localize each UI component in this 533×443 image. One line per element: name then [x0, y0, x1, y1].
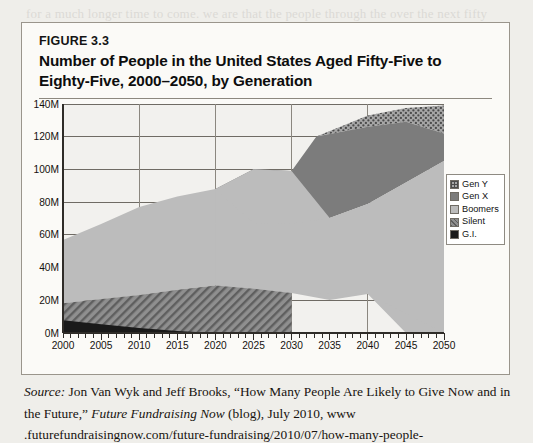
legend-item-silent: Silent	[450, 216, 499, 229]
legend-swatch-silent	[450, 218, 459, 227]
y-axis-tick-labels: 140M 120M 100M 80M 60M 40M 20M 0M	[34, 99, 59, 338]
chart-container: 140M 120M 100M 80M 60M 40M 20M 0M	[22, 99, 509, 349]
figure-box: FIGURE 3.3 Number of People in the Unite…	[21, 22, 510, 375]
svg-text:2025: 2025	[242, 340, 265, 349]
figure-header: FIGURE 3.3 Number of People in the Unite…	[22, 23, 509, 90]
legend-label-gen-y: Gen Y	[462, 180, 488, 189]
source-line-2b: (blog), July 2010, www	[225, 406, 356, 421]
svg-text:20M: 20M	[39, 295, 59, 306]
figure-title-line-1: Number of People in the United States Ag…	[39, 52, 441, 69]
source-citation: Source: Jon Van Wyk and Jeff Brooks, “Ho…	[24, 381, 512, 443]
legend-item-boomers: Boomers	[450, 203, 499, 216]
legend-swatch-g-i	[450, 230, 459, 239]
svg-text:2035: 2035	[318, 340, 341, 349]
chart-legend: Gen Y Gen X Boomers Silent G.I.	[446, 174, 505, 245]
source-line-1: Jon Van Wyk and Jeff Brooks, “How Many P…	[65, 384, 444, 399]
svg-text:0M: 0M	[45, 328, 59, 339]
source-label: Source:	[24, 384, 65, 399]
legend-label-boomers: Boomers	[462, 205, 499, 214]
figure-number: FIGURE 3.3	[39, 34, 492, 48]
figure-title: Number of People in the United States Ag…	[39, 51, 492, 90]
svg-text:2005: 2005	[90, 340, 113, 349]
source-publication: Future Fundraising Now	[91, 406, 224, 421]
svg-text:80M: 80M	[39, 197, 59, 208]
legend-item-gen-x: Gen X	[450, 191, 499, 204]
legend-swatch-gen-x	[450, 192, 459, 201]
svg-text:120M: 120M	[34, 131, 59, 142]
legend-label-silent: Silent	[462, 217, 485, 226]
figure-title-line-2: Eighty-Five, 2000–2050, by Generation	[39, 72, 312, 89]
svg-text:60M: 60M	[39, 229, 59, 240]
svg-text:2015: 2015	[166, 340, 189, 349]
svg-text:2000: 2000	[52, 340, 75, 349]
svg-text:2045: 2045	[395, 340, 418, 349]
x-axis-minor-ticks	[63, 333, 444, 340]
legend-swatch-boomers	[450, 205, 459, 214]
legend-label-g-i: G.I.	[462, 230, 477, 239]
legend-label-gen-x: Gen X	[462, 192, 488, 201]
svg-text:140M: 140M	[34, 99, 59, 110]
svg-text:2040: 2040	[356, 340, 379, 349]
svg-text:2030: 2030	[280, 340, 303, 349]
svg-text:100M: 100M	[34, 164, 59, 175]
stacked-area-chart: 140M 120M 100M 80M 60M 40M 20M 0M	[22, 99, 509, 349]
svg-text:2010: 2010	[128, 340, 151, 349]
x-axis-tick-labels: 2000 2005 2010 2015 2020 2025 2030 2035 …	[52, 340, 456, 349]
source-line-3: .futurefundraisingnow.com/future-fundrai…	[24, 427, 423, 442]
svg-text:2050: 2050	[433, 340, 456, 349]
legend-item-g-i: G.I.	[450, 228, 499, 241]
legend-item-gen-y: Gen Y	[450, 178, 499, 191]
svg-text:40M: 40M	[39, 262, 59, 273]
legend-swatch-gen-y	[450, 180, 459, 189]
svg-text:2020: 2020	[204, 340, 227, 349]
